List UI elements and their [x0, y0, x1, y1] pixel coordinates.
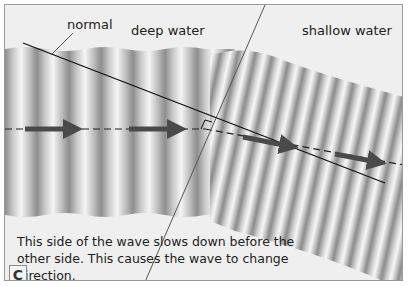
caption-line-1: This side of the wave slows down before … [17, 233, 317, 250]
shallow-water-label: shallow water [302, 23, 392, 38]
deep-water-label: deep water [131, 23, 205, 38]
normal-label: normal [67, 17, 113, 32]
caption-line-2: other side. This causes the wave to chan… [17, 250, 317, 281]
deep-water-waves [5, 47, 235, 217]
panel-label: C [9, 265, 27, 281]
caption: This side of the wave slows down before … [17, 233, 317, 281]
diagram-frame: normal deep water shallow water This sid… [4, 4, 403, 281]
